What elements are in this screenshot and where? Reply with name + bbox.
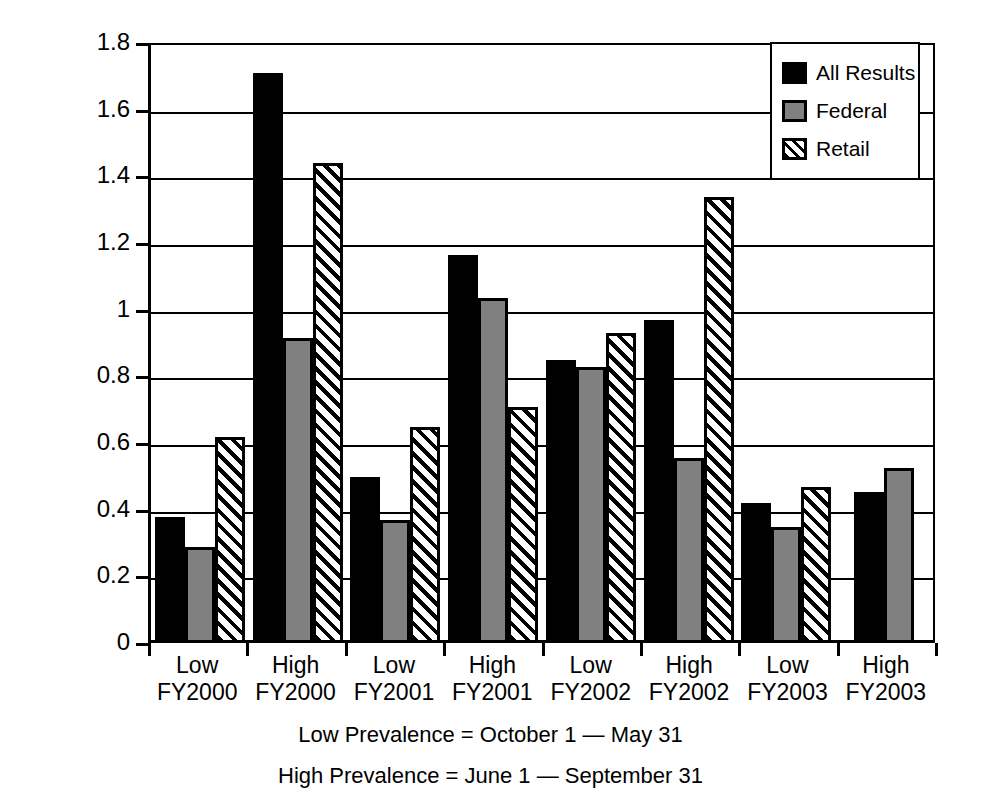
- x-axis-label-line: Low: [345, 652, 443, 679]
- x-axis-tick-mark: [935, 643, 938, 656]
- bar-all-results: [448, 255, 478, 640]
- bar-all-results: [546, 360, 576, 640]
- bar-retail: [801, 487, 831, 640]
- legend-swatch-icon: [782, 62, 807, 84]
- legend-label: Federal: [816, 99, 887, 123]
- y-axis-tick-label: 1: [60, 295, 130, 323]
- x-axis-label-line: High: [443, 652, 541, 679]
- x-axis-label-line: FY2000: [246, 679, 344, 706]
- bar-all-results: [155, 517, 185, 640]
- chart-figure: Percentage positive 00.20.40.60.811.21.4…: [0, 0, 981, 808]
- bar-retail: [704, 197, 734, 640]
- x-axis-label-line: High: [640, 652, 738, 679]
- bar-all-results: [350, 477, 380, 640]
- x-axis-label-line: Low: [738, 652, 836, 679]
- x-axis-label: LowFY2001: [345, 652, 443, 706]
- x-axis-label-line: FY2000: [148, 679, 246, 706]
- y-axis-title: Percentage positive: [14, 0, 60, 135]
- legend-item: Federal: [782, 92, 910, 130]
- bar-group: [151, 45, 249, 640]
- bar-all-results: [644, 320, 674, 640]
- legend-item: All Results: [782, 54, 910, 92]
- bar-all-results: [741, 503, 771, 640]
- bar-federal: [478, 298, 508, 640]
- bar-group: [249, 45, 347, 640]
- legend-swatch-icon: [782, 100, 807, 122]
- legend: All ResultsFederalRetail: [770, 42, 920, 180]
- x-axis-label: LowFY2002: [542, 652, 640, 706]
- bar-retail: [508, 407, 538, 640]
- y-axis-tick-label: 0.4: [60, 495, 130, 523]
- x-axis-label-line: FY2003: [837, 679, 935, 706]
- bar-retail: [215, 437, 245, 640]
- bar-all-results: [854, 492, 884, 640]
- x-axis-label-line: High: [837, 652, 935, 679]
- bar-group: [640, 45, 738, 640]
- bar-federal: [380, 520, 410, 640]
- bar-federal: [576, 367, 606, 640]
- bar-all-results: [253, 73, 283, 640]
- y-axis-tick-label: 0.8: [60, 361, 130, 389]
- x-axis-label: HighFY2000: [246, 652, 344, 706]
- x-axis-label: LowFY2000: [148, 652, 246, 706]
- footnote-high-prevalence: High Prevalence = June 1 — September 31: [0, 763, 981, 789]
- x-axis-label-line: Low: [148, 652, 246, 679]
- x-axis-label: HighFY2001: [443, 652, 541, 706]
- legend-label: All Results: [816, 61, 915, 85]
- bar-federal: [283, 338, 313, 640]
- y-axis-tick-label: 1.2: [60, 228, 130, 256]
- x-axis-label-line: FY2002: [542, 679, 640, 706]
- bar-group: [542, 45, 640, 640]
- x-axis-label: HighFY2003: [837, 652, 935, 706]
- legend-item: Retail: [782, 130, 910, 168]
- x-axis-label-line: FY2002: [640, 679, 738, 706]
- bar-retail: [606, 333, 636, 640]
- bar-federal: [185, 547, 215, 640]
- bar-group: [444, 45, 542, 640]
- bar-retail: [410, 427, 440, 640]
- y-axis-tick-label: 0.2: [60, 561, 130, 589]
- footnote-low-prevalence: Low Prevalence = October 1 — May 31: [0, 722, 981, 748]
- y-axis-tick-label: 0.6: [60, 428, 130, 456]
- y-axis-tick-label: 1.8: [60, 28, 130, 56]
- x-axis-label-line: FY2001: [345, 679, 443, 706]
- x-axis-label: LowFY2003: [738, 652, 836, 706]
- x-axis-label-line: Low: [542, 652, 640, 679]
- x-axis-label: HighFY2002: [640, 652, 738, 706]
- x-axis-label-line: FY2001: [443, 679, 541, 706]
- y-axis-tick-label: 1.4: [60, 161, 130, 189]
- bar-federal: [674, 458, 704, 640]
- x-axis-labels: LowFY2000HighFY2000LowFY2001HighFY2001Lo…: [148, 652, 935, 706]
- legend-swatch-icon: [782, 138, 807, 160]
- bar-group: [347, 45, 445, 640]
- y-axis-tick-label: 0: [60, 628, 130, 656]
- x-axis-label-line: FY2003: [738, 679, 836, 706]
- bar-retail: [313, 163, 343, 640]
- y-axis-tick-label: 1.6: [60, 95, 130, 123]
- x-axis-label-line: High: [246, 652, 344, 679]
- bar-federal: [884, 468, 914, 640]
- bar-federal: [771, 527, 801, 640]
- legend-label: Retail: [816, 137, 870, 161]
